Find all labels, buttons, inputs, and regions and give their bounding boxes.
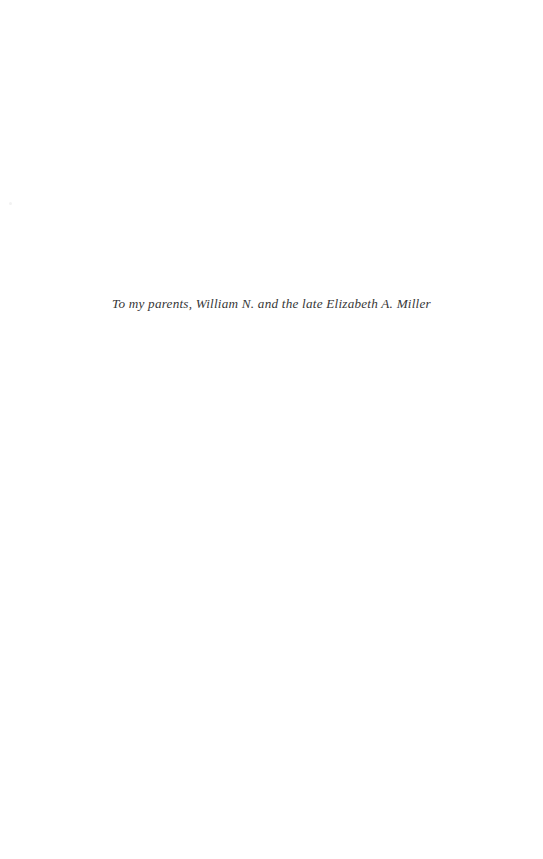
dedication-text: To my parents, William N. and the late E… [0,296,543,312]
scan-artifact-speck [9,202,12,205]
document-page: To my parents, William N. and the late E… [0,0,543,859]
